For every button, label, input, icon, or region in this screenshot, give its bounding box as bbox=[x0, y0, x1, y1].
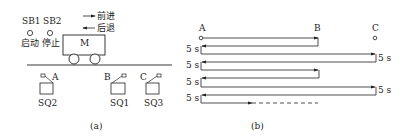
delay-label-a: 5 s bbox=[186, 93, 200, 103]
wheel-icon bbox=[90, 54, 100, 64]
diagram-canvas: SB1 启动 SB2 停止 前进 后退 M bbox=[0, 0, 403, 137]
point-c-marker bbox=[373, 36, 377, 40]
sb1-label: SB1 bbox=[22, 16, 41, 26]
point-b-label: B bbox=[104, 72, 111, 82]
caption-a: (a) bbox=[90, 121, 102, 131]
point-a-label: A bbox=[51, 72, 59, 82]
point-a-label: A bbox=[198, 23, 206, 33]
delay-label-a: 5 s bbox=[186, 60, 200, 70]
sb2-function: 停止 bbox=[42, 37, 60, 48]
panel-a: SB1 启动 SB2 停止 前进 后退 M bbox=[21, 10, 172, 131]
wheel-icon bbox=[69, 54, 79, 64]
delay-label-a: 5 s bbox=[186, 44, 200, 54]
delay-label-a: 5 s bbox=[186, 77, 200, 87]
button-contact-icon bbox=[27, 30, 32, 35]
point-c-label: C bbox=[372, 23, 379, 33]
backward-label: 后退 bbox=[97, 23, 115, 33]
sq2-label: SQ2 bbox=[38, 98, 57, 108]
delay-label-c: 5 s bbox=[378, 85, 392, 95]
limit-switch-sq1: B SQ1 bbox=[104, 72, 129, 108]
forward-label: 前进 bbox=[97, 10, 115, 21]
cart: M bbox=[63, 35, 105, 64]
button-contact-icon bbox=[47, 30, 52, 35]
panel-b: A B C 5 s 5 s 5 s 5 s bbox=[186, 23, 392, 131]
start-button-sb1: SB1 启动 bbox=[21, 16, 41, 48]
stop-button-sb2: SB2 停止 bbox=[42, 16, 62, 48]
point-b-label: B bbox=[314, 23, 321, 33]
sb1-function: 启动 bbox=[21, 37, 39, 48]
delay-label-c: 5 s bbox=[378, 53, 392, 63]
caption-b: (b) bbox=[251, 121, 264, 131]
sq3-label: SQ3 bbox=[144, 98, 164, 108]
sq1-label: SQ1 bbox=[110, 98, 129, 108]
motor-label: M bbox=[80, 38, 89, 48]
point-a-marker bbox=[199, 36, 203, 40]
direction-legend: 前进 后退 bbox=[83, 10, 115, 33]
limit-switch-sq2: A SQ2 bbox=[38, 72, 59, 108]
limit-switch-sq3: C SQ3 bbox=[140, 72, 164, 108]
point-c-label: C bbox=[140, 72, 147, 82]
sb2-label: SB2 bbox=[43, 16, 62, 26]
